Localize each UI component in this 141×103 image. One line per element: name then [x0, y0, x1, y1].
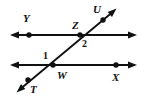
label-point-w: W: [57, 70, 67, 81]
point-W-dot: [50, 62, 55, 67]
point-X-dot: [113, 62, 118, 67]
point-U-dot: [100, 17, 105, 22]
upper-right-arrowhead-icon: [128, 31, 137, 38]
lower-left-arrowhead-icon: [10, 61, 19, 68]
upper-left-arrowhead-icon: [10, 31, 19, 38]
point-Y-dot: [26, 32, 31, 37]
point-T-dot: [25, 77, 30, 82]
label-angle-2: 2: [82, 39, 87, 49]
lower-right-arrowhead-icon: [128, 61, 137, 68]
label-point-y: Y: [23, 13, 30, 24]
label-point-x: X: [112, 72, 119, 83]
label-point-z: Z: [72, 20, 79, 31]
point-Z-dot: [77, 32, 82, 37]
geometry-figure: Y Z U W X T 1 2: [0, 0, 141, 103]
label-angle-1: 1: [43, 51, 48, 61]
label-point-t: T: [30, 84, 37, 95]
label-point-u: U: [93, 4, 101, 15]
figure-canvas: [0, 0, 141, 103]
